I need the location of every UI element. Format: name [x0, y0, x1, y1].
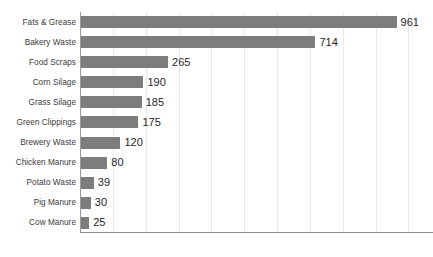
bar	[81, 16, 397, 28]
bar	[81, 217, 89, 229]
bar-row: Cow Manure25	[0, 213, 433, 233]
bar-container: 714	[81, 32, 338, 52]
value-label: 80	[111, 157, 123, 168]
category-label: Green Clippings	[0, 118, 76, 127]
bar-container: 39	[81, 173, 110, 193]
value-label: 39	[98, 177, 110, 188]
value-label: 30	[95, 197, 107, 208]
bar	[81, 197, 91, 209]
category-label: Corn Silage	[0, 78, 76, 87]
category-label: Grass Silage	[0, 98, 76, 107]
bar-container: 120	[81, 133, 143, 153]
value-label: 25	[93, 217, 105, 228]
category-label: Pig Manure	[0, 198, 76, 207]
category-label: Fats & Grease	[0, 18, 76, 27]
bar-container: 185	[81, 92, 164, 112]
bar	[81, 116, 138, 128]
bar-container: 265	[81, 52, 190, 72]
bar	[81, 177, 94, 189]
bar-row: Food Scraps265	[0, 52, 433, 72]
category-label: Bakery Waste	[0, 38, 76, 47]
category-label: Potato Waste	[0, 178, 76, 187]
bar	[81, 157, 107, 169]
bar-row: Bakery Waste714	[0, 32, 433, 52]
value-label: 961	[401, 17, 419, 28]
bar	[81, 137, 120, 149]
bar-row: Corn Silage190	[0, 72, 433, 92]
value-label: 714	[319, 37, 337, 48]
bar	[81, 96, 142, 108]
category-label: Food Scraps	[0, 58, 76, 67]
bar-row: Green Clippings175	[0, 112, 433, 132]
bar-container: 25	[81, 213, 105, 233]
bar-container: 961	[81, 12, 419, 32]
bar-row: Grass Silage185	[0, 92, 433, 112]
bar-container: 80	[81, 153, 124, 173]
bar-container: 190	[81, 72, 166, 92]
bar	[81, 76, 143, 88]
bar	[81, 56, 168, 68]
bar-rows-group: Fats & Grease961Bakery Waste714Food Scra…	[0, 12, 433, 233]
bar-chart: Fats & Grease961Bakery Waste714Food Scra…	[0, 0, 433, 257]
value-label: 175	[142, 117, 160, 128]
bar-row: Chicken Manure80	[0, 153, 433, 173]
bar	[81, 36, 315, 48]
bar-container: 175	[81, 112, 161, 132]
value-label: 120	[124, 137, 142, 148]
bar-container: 30	[81, 193, 107, 213]
category-label: Brewery Waste	[0, 138, 76, 147]
category-label: Cow Manure	[0, 218, 76, 227]
category-label: Chicken Manure	[0, 158, 76, 167]
value-label: 190	[147, 77, 165, 88]
value-label: 185	[146, 97, 164, 108]
bar-row: Fats & Grease961	[0, 12, 433, 32]
bar-row: Potato Waste39	[0, 173, 433, 193]
bar-row: Pig Manure30	[0, 193, 433, 213]
bar-row: Brewery Waste120	[0, 133, 433, 153]
value-label: 265	[172, 57, 190, 68]
